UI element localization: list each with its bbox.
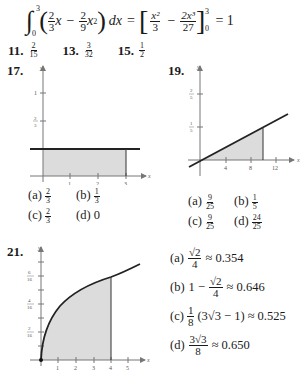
- answer-21b: (b) 1 − √24 ≈ 0.646: [170, 276, 286, 299]
- svg-text:4: 4: [224, 165, 227, 171]
- anti1-fraction: x²3: [150, 10, 160, 33]
- answer-21a: (a) √24 ≈ 0.354: [170, 247, 286, 270]
- integral-upper: 3: [36, 4, 40, 13]
- term2-fraction: 29: [79, 10, 87, 33]
- y-axis-label: y: [39, 65, 43, 71]
- svg-text:5: 5: [126, 365, 129, 371]
- problem-number: 15.: [118, 43, 134, 59]
- answer-fraction: 12: [139, 42, 145, 59]
- shaded-region: [43, 149, 126, 176]
- bracket-open: [: [139, 5, 148, 37]
- dx: dx: [109, 13, 122, 29]
- svg-text:5: 5: [190, 128, 193, 133]
- eval-upper: 3: [205, 7, 209, 16]
- problem-17-answers: (a) 23 (b) 13 (c) 23 (d) 0: [28, 188, 116, 225]
- answer-fraction: 215: [29, 42, 39, 59]
- problem-19-answers: (a) 925 (b) 15 (c) 925 (d) 2425: [188, 194, 278, 231]
- answer-17b: (b) 13: [76, 188, 116, 205]
- problem-19-graph: y x 2 5 1 5 4 8 12: [152, 60, 304, 180]
- svg-text:16: 16: [27, 277, 33, 282]
- svg-text:16: 16: [27, 333, 33, 338]
- answers-row: 11. 215 13. 332 15. 12: [8, 42, 145, 59]
- svg-text:1: 1: [190, 121, 193, 126]
- svg-text:8: 8: [249, 165, 252, 171]
- answer-21d: (d) 3√38 ≈ 0.650: [170, 334, 286, 357]
- problem-number: 11.: [8, 43, 24, 59]
- equation-result: = 1: [215, 13, 233, 29]
- svg-text:3: 3: [92, 365, 95, 371]
- paren-close: ): [97, 6, 106, 36]
- svg-text:5: 5: [190, 95, 193, 100]
- svg-text:y: y: [37, 245, 41, 251]
- answer-11: 11. 215: [8, 42, 39, 59]
- svg-text:4: 4: [109, 365, 112, 371]
- answer-17d: (d) 0: [76, 208, 116, 225]
- minus-sign-2: −: [167, 13, 175, 29]
- svg-text:y: y: [196, 64, 200, 70]
- svg-text:x: x: [146, 357, 150, 363]
- answer-21c: (c) 18 (3√3 − 1) ≈ 0.525: [170, 305, 286, 328]
- term1-var: x: [55, 13, 61, 29]
- eval-lower: 0: [205, 24, 209, 33]
- integral-equation: ∫ 3 0 ( 23 x − 29 x2 ) dx = [ x²3 − 2x³2…: [26, 2, 234, 40]
- svg-text:12: 12: [272, 165, 278, 171]
- answer-17a: (a) 23: [28, 188, 76, 205]
- answer-15: 15. 12: [118, 42, 145, 59]
- svg-text:2: 2: [74, 365, 77, 371]
- problem-number: 13.: [63, 43, 79, 59]
- answer-fraction: 332: [84, 42, 94, 59]
- svg-text:6: 6: [28, 270, 31, 275]
- minus-sign: −: [67, 13, 75, 29]
- svg-text:2: 2: [28, 326, 31, 331]
- equals-sign: =: [127, 13, 135, 29]
- svg-text:2: 2: [34, 116, 37, 121]
- svg-text:4: 4: [28, 298, 31, 303]
- answer-19b: (b) 15: [234, 194, 278, 211]
- svg-text:16: 16: [27, 305, 33, 310]
- paren-open: (: [39, 6, 48, 36]
- answer-19d: (d) 2425: [234, 214, 278, 231]
- answer-19c: (c) 925: [188, 214, 234, 231]
- svg-text:3: 3: [124, 181, 127, 185]
- answer-19a: (a) 925: [188, 194, 234, 211]
- svg-text:2: 2: [96, 181, 99, 185]
- svg-text:3: 3: [34, 123, 37, 128]
- integral-lower: 0: [32, 29, 36, 38]
- answer-13: 13. 332: [63, 42, 94, 59]
- svg-text:2: 2: [190, 88, 193, 93]
- x-axis-label: x: [147, 173, 151, 179]
- bracket-close: ] 3 0: [196, 5, 205, 37]
- problem-17-graph: y x 1 2 3 1 2 3: [0, 60, 152, 185]
- origin-point: [39, 358, 43, 362]
- answer-17c: (c) 23: [28, 208, 76, 225]
- problem-21-graph: y x 2 16 4 16 6 16 1 2 3 4 5: [0, 240, 160, 383]
- anti2-fraction: 2x³27: [180, 10, 196, 33]
- problem-21-answers: (a) √24 ≈ 0.354 (b) 1 − √24 ≈ 0.646 (c) …: [170, 247, 286, 357]
- svg-text:1: 1: [34, 90, 37, 96]
- svg-text:x: x: [296, 157, 300, 163]
- integral-sign: ∫ 3 0: [26, 6, 33, 36]
- svg-text:1: 1: [68, 181, 71, 185]
- svg-text:1: 1: [56, 365, 59, 371]
